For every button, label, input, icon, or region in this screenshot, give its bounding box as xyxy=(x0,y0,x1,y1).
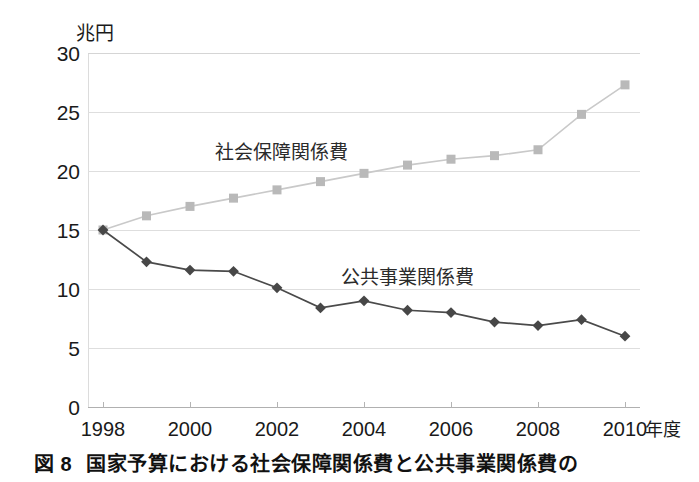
x-axis-tick-labels: 1998200020022004200620082010 xyxy=(88,419,640,445)
y-axis-unit-label: 兆円 xyxy=(76,24,114,43)
x-tick-label-1998: 1998 xyxy=(81,419,126,439)
y-tick-label-25: 25 xyxy=(34,102,80,123)
y-tick-label-5: 5 xyxy=(34,338,80,359)
series-label-public-works: 公共事業関係費 xyxy=(341,268,474,287)
data-point-public-works-2007 xyxy=(489,317,500,328)
y-tick-label-15: 15 xyxy=(34,220,80,241)
x-tick-label-2002: 2002 xyxy=(255,419,300,439)
data-point-social-security-2008 xyxy=(534,145,543,154)
plot-area: 社会保障関係費 公共事業関係費 xyxy=(88,53,640,407)
data-point-public-works-2008 xyxy=(533,320,544,331)
data-point-social-security-2010 xyxy=(621,80,630,89)
data-point-public-works-2004 xyxy=(359,295,370,306)
figure-caption-number: 図 8 xyxy=(34,453,72,475)
figure-caption: 図 8国家予算における社会保障関係費と公共事業関係費の xyxy=(34,452,578,476)
data-point-public-works-2001 xyxy=(228,266,239,277)
figure-caption-text: 国家予算における社会保障関係費と公共事業関係費の xyxy=(86,453,578,475)
data-point-social-security-2001 xyxy=(229,194,238,203)
data-point-public-works-2005 xyxy=(402,305,413,316)
y-tick-label-30: 30 xyxy=(34,43,80,64)
data-point-social-security-2009 xyxy=(577,110,586,119)
data-point-public-works-2006 xyxy=(446,307,457,318)
series-label-social-security: 社会保障関係費 xyxy=(215,143,348,162)
data-point-social-security-2002 xyxy=(273,185,282,194)
data-point-social-security-1999 xyxy=(142,211,151,220)
data-point-public-works-2000 xyxy=(185,265,196,276)
x-tick-label-2010: 2010 xyxy=(603,419,648,439)
y-tick-label-0: 0 xyxy=(34,397,80,418)
y-tick-label-20: 20 xyxy=(34,161,80,182)
data-point-social-security-2000 xyxy=(186,202,195,211)
data-point-public-works-2009 xyxy=(576,314,587,325)
x-tick-label-2004: 2004 xyxy=(342,419,387,439)
data-point-public-works-2003 xyxy=(315,302,326,313)
data-point-social-security-2007 xyxy=(490,151,499,160)
data-point-social-security-2006 xyxy=(447,155,456,164)
figure-container: 兆円 302520151050 社会保障関係費 公共事業関係費 19982000… xyxy=(0,0,699,482)
x-tick-label-2008: 2008 xyxy=(516,419,561,439)
data-point-social-security-2003 xyxy=(316,177,325,186)
x-axis-unit-label: 年度 xyxy=(645,421,681,439)
y-axis-tick-labels: 302520151050 xyxy=(22,53,80,407)
x-tick-label-2000: 2000 xyxy=(168,419,213,439)
data-point-social-security-2005 xyxy=(403,161,412,170)
data-point-public-works-2002 xyxy=(272,282,283,293)
data-point-public-works-2010 xyxy=(620,331,631,342)
x-tick-label-2006: 2006 xyxy=(429,419,474,439)
series-line-social-security xyxy=(103,85,625,230)
series-plot xyxy=(88,53,640,407)
y-tick-label-10: 10 xyxy=(34,279,80,300)
data-point-social-security-2004 xyxy=(360,169,369,178)
